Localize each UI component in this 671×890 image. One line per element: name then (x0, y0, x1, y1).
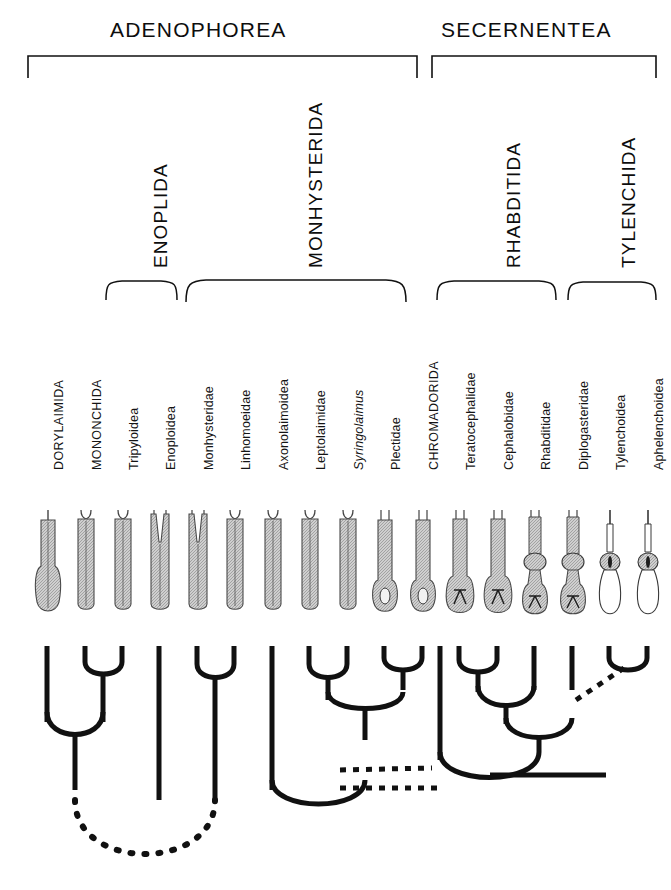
clade-rhabditida-inner (478, 686, 534, 706)
clade-monhysteridae-linhomoeidae (197, 646, 234, 678)
dashed-link-adenophorea-secernentea-upper (340, 768, 432, 770)
clade-mononchida-tripyloidea (85, 646, 122, 674)
clade-leptolaimid-plectid (328, 692, 403, 709)
figure-canvas: ADENOPHOREA SECERNENTEA ENOPLIDA MONHYST… (0, 0, 671, 890)
cladogram-tree (0, 0, 671, 890)
clade-plectidae-chromadorida (384, 646, 422, 670)
clade-teratocephalidae-cephalobidae (459, 646, 497, 672)
clade-adenophorea-basal-left (47, 712, 103, 735)
clade-rhabditida-outer (506, 718, 572, 738)
clade-leptolaimidae-syringolaimus (309, 646, 347, 678)
clade-tylenchoidea-aphelenchoidea (609, 646, 647, 670)
dashed-link-tylenchida (576, 668, 624, 700)
dashed-basal-arc-adenophorea (75, 800, 215, 854)
clade-monhysterida-basal (272, 780, 365, 804)
